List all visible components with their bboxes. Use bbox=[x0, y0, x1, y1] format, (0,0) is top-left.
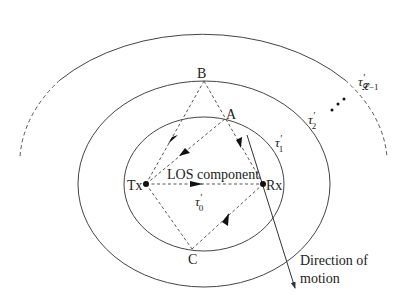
motion-label-line1: Direction of bbox=[300, 253, 368, 268]
c-label: C bbox=[188, 252, 197, 267]
motion-label-line2: motion bbox=[300, 271, 340, 286]
outer-ellipse-dashed-left bbox=[20, 80, 60, 157]
tau1-label: τ′1 bbox=[275, 133, 283, 154]
arrow-tx-a-icon bbox=[179, 148, 190, 156]
motion-arrow bbox=[247, 135, 295, 288]
b-label: B bbox=[197, 66, 206, 81]
arrow-c-rx-icon bbox=[222, 213, 229, 226]
arrow-tx-b-icon bbox=[168, 135, 178, 144]
tx-label: Tx bbox=[127, 178, 143, 193]
ray-tx-c bbox=[146, 184, 192, 249]
diagram-canvas: Tx Rx B A C LOS component τ′0 τ′1 τ′2 τ′… bbox=[0, 0, 400, 303]
tx-node bbox=[143, 181, 149, 187]
rx-label: Rx bbox=[266, 178, 282, 193]
a-label: A bbox=[226, 107, 237, 122]
tauL-label: τ′𝓛−1 bbox=[358, 72, 378, 92]
multipath-rays bbox=[146, 81, 263, 249]
los-label: LOS component bbox=[167, 167, 259, 182]
ellipsis-dots bbox=[331, 98, 346, 112]
tau0-label: τ′0 bbox=[195, 192, 204, 213]
